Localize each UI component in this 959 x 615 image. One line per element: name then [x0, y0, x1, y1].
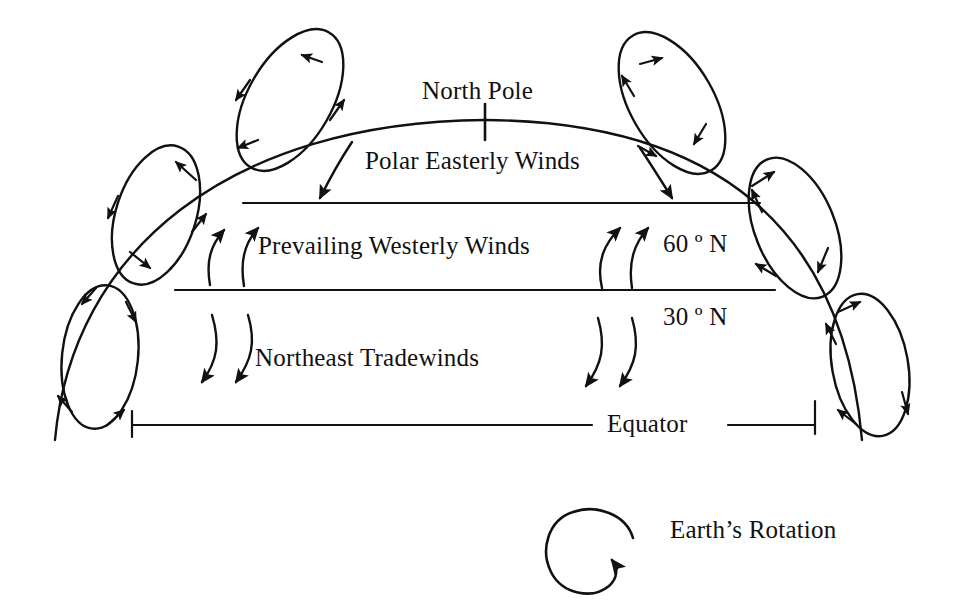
northeast-tradewinds-right-arrows: [586, 318, 636, 386]
northeast-tradewinds-left-arrows: [202, 315, 252, 382]
prevailing-westerlies-left-arrows: [209, 228, 258, 286]
hadley-cell-left: [55, 281, 146, 432]
label-northeast-tradewinds: Northeast Tradewinds: [255, 345, 479, 370]
label-earths-rotation: Earth’s Rotation: [670, 517, 836, 542]
label-prevailing-westerly-winds: Prevailing Westerly Winds: [258, 233, 530, 258]
earths-rotation-arrow: [546, 509, 633, 593]
diagram-canvas: North Pole Polar Easterly Winds Prevaili…: [0, 0, 959, 615]
ferrel-cell-left: [96, 134, 217, 296]
label-latitude-60n: 60 º N: [663, 231, 728, 256]
polar-cell-left: [215, 11, 366, 188]
label-north-pole: North Pole: [422, 78, 533, 103]
label-latitude-30n: 30 º N: [663, 304, 728, 329]
label-polar-easterly-winds: Polar Easterly Winds: [365, 148, 580, 173]
polar-cell-right: [597, 14, 748, 191]
ferrel-cell-right: [730, 144, 860, 311]
hadley-cell-right: [820, 287, 920, 442]
label-equator: Equator: [607, 411, 688, 436]
prevailing-westerlies-right-arrows: [600, 228, 648, 288]
